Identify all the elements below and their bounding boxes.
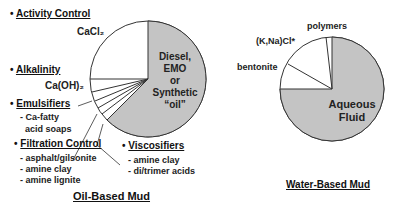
oil-based-title: Oil-Based Mud (73, 190, 150, 202)
category-emulsifiers: • Emulsifiers (10, 98, 70, 110)
item-filtration-2: - amine clay (20, 164, 72, 175)
heading: Activity Control (16, 8, 90, 19)
category-filtration-control: • Filtration Control (14, 138, 101, 150)
water-center-label: Aqueous Fluid (322, 98, 382, 124)
category-alkalinity: • Alkalinity (10, 64, 60, 76)
item-filtration-1: - asphalt/gilsonite (20, 153, 97, 164)
water-based-title: Water-Based Mud (286, 179, 370, 190)
heading: Emulsifiers (16, 98, 70, 109)
slice-kna-cl: (K,Na)Cl* (256, 36, 295, 47)
category-viscosifiers: • Viscosifiers (122, 140, 184, 152)
oil-center-label: Diesel, EMO or Synthetic “oil” (145, 51, 205, 111)
item-emulsifier-2: acid soaps (25, 124, 72, 135)
item-cacl2: CaCl₂ (77, 26, 104, 37)
bullet: • (10, 8, 14, 19)
bullet: • (14, 138, 18, 149)
item-caoh2: Ca(OH)₂ (45, 80, 84, 91)
bullet: • (10, 98, 14, 109)
heading: Viscosifiers (128, 140, 184, 151)
category-activity-control: • Activity Control (10, 8, 90, 20)
bullet: • (10, 64, 14, 75)
item-emulsifier-1: - Ca-fatty (20, 112, 59, 123)
slice-polymers: polymers (307, 21, 347, 32)
item-filtration-3: - amine lignite (20, 175, 81, 186)
item-visc-2: - di/trimer acids (128, 166, 195, 177)
heading: Alkalinity (16, 64, 60, 75)
item-visc-1: - amine clay (128, 155, 180, 166)
bullet: • (122, 140, 126, 151)
heading: Filtration Control (20, 138, 101, 149)
slice-bentonite: bentonite (237, 62, 278, 73)
